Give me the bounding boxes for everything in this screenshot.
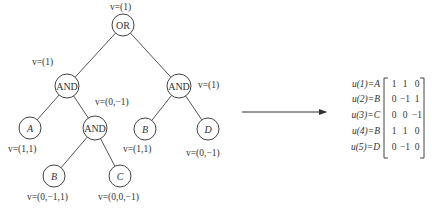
tree-node-and-right: AND (167, 74, 191, 98)
matrix-cell: 0 (392, 110, 397, 120)
node-label: AND (84, 123, 106, 134)
access-tree-diagram: ORANDANDAANDBCBD v=(1)v=(1)v=(1)v=(1,1)v… (0, 0, 432, 210)
vector-label: v=(1,1) (8, 144, 36, 155)
matrix-cell: 0 (415, 79, 420, 89)
matrix-row-label: u(1)=A (352, 79, 380, 90)
vector-label: v=(0,−1) (95, 97, 129, 108)
tree-edge (75, 33, 115, 77)
tree-edge (186, 96, 202, 120)
lsss-matrix: u(1)=A110u(2)=B0−11u(3)=C00−1u(4)=B110u(… (351, 78, 424, 158)
matrix-cell: 0 (415, 142, 420, 152)
tree-node-leaf-b1: B (43, 165, 65, 187)
tree-edge (130, 33, 170, 77)
tree-node-leaf-b2: B (134, 118, 156, 140)
tree-node-and-mid: AND (83, 116, 107, 140)
vector-label: v=(1,1) (123, 144, 151, 155)
node-label: AND (168, 81, 190, 92)
matrix-row-label: u(3)=C (351, 110, 380, 121)
matrix-row: u(1)=A110 (352, 79, 420, 90)
node-label: B (51, 171, 57, 182)
node-label: AND (56, 81, 78, 92)
matrix-row: u(5)=D0−10 (351, 142, 420, 153)
matrix-row-label: u(2)=B (352, 94, 380, 105)
matrix-cell: 1 (392, 79, 397, 89)
node-label: A (26, 123, 34, 134)
matrix-left-bracket (384, 78, 388, 158)
node-label: OR (116, 20, 130, 31)
tree-edge (61, 137, 87, 168)
matrix-cell: 0 (392, 142, 397, 152)
vector-label: v=(1) (32, 57, 53, 68)
vector-label: v=(0,0,−1) (98, 192, 139, 203)
tree-node-leaf-c: C (109, 165, 131, 187)
tree-edge (101, 139, 115, 167)
node-label: D (203, 124, 212, 135)
vector-label: v=(1) (198, 80, 219, 91)
matrix-cell: −1 (412, 110, 422, 120)
matrix-row-label: u(5)=D (351, 142, 380, 153)
tree-node-and-left: AND (55, 74, 79, 98)
tree-node-leaf-d: D (197, 118, 219, 140)
node-label: C (117, 171, 124, 182)
vector-label: v=(0,−1,1) (27, 192, 68, 203)
tree-edge (74, 96, 89, 118)
tree-node-or: OR (112, 14, 134, 36)
matrix-cell: 0 (392, 94, 397, 104)
vector-label: v=(0,−1) (186, 148, 220, 159)
matrix-row: u(4)=B110 (352, 126, 420, 137)
matrix-row: u(2)=B0−11 (352, 94, 420, 105)
matrix-cell: 1 (403, 126, 408, 136)
matrix-cell: 1 (392, 126, 397, 136)
vector-label: v=(1) (110, 2, 131, 13)
matrix-row-label: u(4)=B (352, 126, 380, 137)
matrix-cell: 1 (415, 94, 420, 104)
tree-edge (37, 95, 59, 120)
tree-edge (152, 95, 172, 120)
matrix-cell: 0 (415, 126, 420, 136)
matrix-cell: −1 (400, 142, 410, 152)
matrix-cell: 1 (403, 79, 408, 89)
matrix-cell: 0 (403, 110, 408, 120)
matrix-row: u(3)=C00−1 (351, 110, 422, 121)
matrix-cell: −1 (400, 94, 410, 104)
tree-node-leaf-a: A (19, 117, 41, 139)
node-label: B (142, 124, 148, 135)
